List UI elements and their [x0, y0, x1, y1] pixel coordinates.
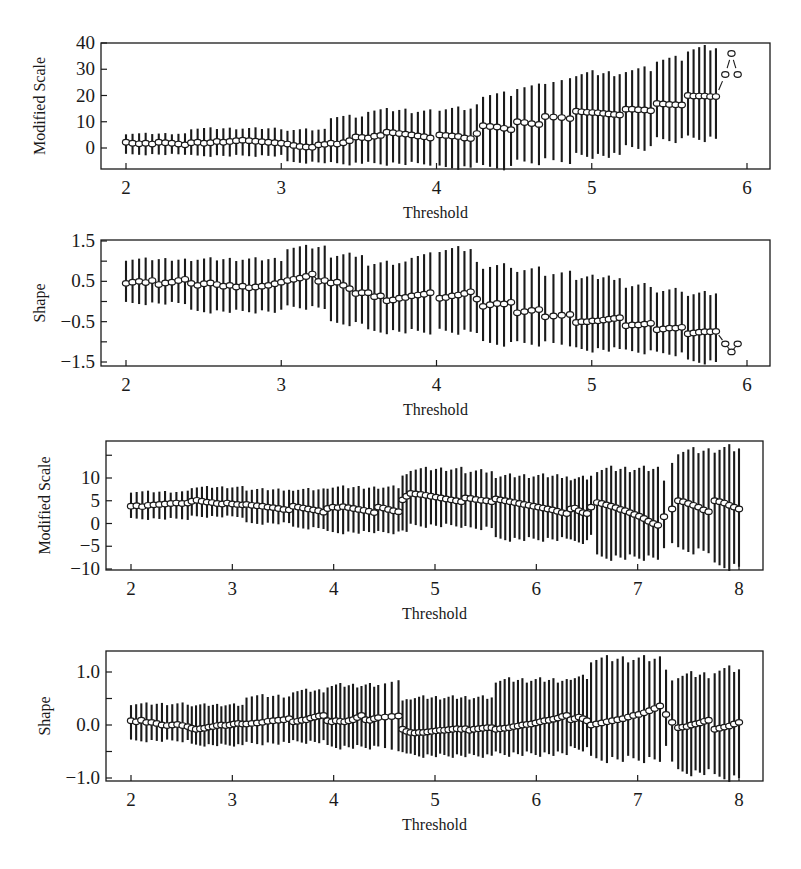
data-point — [669, 720, 676, 726]
point-estimates — [122, 93, 719, 150]
data-point — [669, 506, 676, 512]
y-tick-label: −5 — [80, 535, 100, 556]
x-tick-label: 3 — [228, 578, 238, 599]
data-point — [654, 523, 661, 529]
data-point — [550, 313, 557, 319]
y-tick-label: 10 — [76, 111, 95, 132]
data-point — [507, 127, 514, 133]
data-point — [656, 703, 663, 709]
data-point — [660, 514, 667, 520]
x-tick-label: 4 — [329, 578, 339, 599]
tail-connector — [727, 60, 729, 68]
x-tick-label: 6 — [742, 374, 752, 395]
y-tick-label: −1.5 — [61, 351, 95, 372]
y-tick-label: 0 — [86, 137, 96, 158]
y-tick-label: 20 — [76, 85, 95, 106]
data-point — [535, 307, 542, 313]
x-tick-label: 5 — [587, 374, 597, 395]
x-tick-label: 8 — [734, 578, 744, 599]
data-point — [550, 114, 557, 120]
x-tick-label: 3 — [277, 374, 287, 395]
x-tick-label: 2 — [126, 789, 136, 810]
data-point — [647, 108, 654, 114]
tail-connector — [719, 335, 723, 340]
x-tick-label: 6 — [532, 578, 542, 599]
tail-connector — [719, 81, 723, 90]
data-point — [486, 124, 493, 130]
data-point — [473, 131, 480, 137]
tail-point — [728, 51, 735, 57]
data-point — [479, 304, 486, 310]
data-point — [486, 302, 493, 308]
data-point — [377, 293, 384, 299]
tail-point — [734, 72, 741, 78]
x-tick-label: 5 — [430, 578, 440, 599]
data-point — [500, 301, 507, 307]
data-point — [427, 290, 434, 296]
y-tick-label: −0.5 — [61, 311, 95, 332]
x-tick-label: 5 — [587, 177, 597, 198]
x-axis-label: Threshold — [402, 605, 467, 622]
data-point — [375, 715, 382, 721]
data-point — [566, 312, 573, 318]
data-point — [395, 713, 402, 719]
y-axis-label: Modified Scale — [36, 456, 53, 554]
data-point — [521, 120, 528, 126]
y-tick-label: 0 — [91, 513, 101, 534]
data-point — [583, 511, 590, 517]
data-point — [309, 271, 316, 277]
y-tick-label: 1.5 — [71, 230, 95, 251]
x-tick-label: 3 — [228, 789, 238, 810]
x-tick-label: 7 — [633, 578, 643, 599]
data-point — [388, 714, 395, 720]
y-axis-label: Modified Scale — [31, 57, 48, 155]
data-point — [500, 126, 507, 132]
y-tick-label: 5 — [91, 490, 101, 511]
figure: 01020304023456ThresholdModified Scale −1… — [0, 0, 801, 869]
data-point — [528, 308, 535, 314]
x-axis-label: Threshold — [403, 204, 468, 221]
x-tick-label: 8 — [734, 789, 744, 810]
data-point — [514, 310, 521, 316]
panel-shape-bottom: −1.00.01.02345678ThresholdShape — [36, 651, 763, 833]
x-tick-label: 4 — [432, 374, 442, 395]
data-point — [467, 289, 474, 295]
x-tick-label: 6 — [742, 177, 752, 198]
data-point — [467, 136, 474, 142]
tail-point — [734, 341, 741, 347]
data-point — [712, 94, 719, 100]
x-axis-label: Threshold — [403, 401, 468, 418]
data-point — [735, 720, 742, 726]
data-point — [678, 325, 685, 331]
point-estimates — [122, 271, 719, 336]
data-point — [566, 116, 573, 122]
data-point — [735, 506, 742, 512]
y-tick-label: −1.0 — [66, 767, 100, 788]
panel-modified-scale-bottom: −10−505102345678ThresholdModified Scale — [36, 441, 763, 622]
data-point — [181, 277, 188, 283]
tail-points — [719, 335, 742, 355]
data-point — [542, 114, 549, 120]
data-point — [705, 509, 712, 515]
tail-point — [728, 349, 735, 355]
tail-point — [722, 341, 729, 347]
x-tick-label: 5 — [430, 789, 440, 810]
tail-point — [722, 72, 729, 78]
data-point — [493, 301, 500, 307]
y-tick-label: 1.0 — [76, 661, 100, 682]
data-point — [587, 504, 594, 510]
x-axis-label: Threshold — [402, 816, 467, 833]
data-point — [542, 314, 549, 320]
data-point — [616, 112, 623, 118]
y-tick-label: 0.0 — [76, 714, 100, 735]
x-tick-label: 2 — [126, 578, 136, 599]
data-point — [678, 102, 685, 108]
error-bars — [131, 444, 739, 571]
x-tick-label: 3 — [277, 177, 287, 198]
data-point — [507, 300, 514, 306]
y-tick-label: 40 — [76, 32, 95, 53]
y-axis-label: Shape — [36, 696, 54, 735]
error-bars — [131, 655, 739, 782]
y-tick-label: 0.5 — [71, 270, 95, 291]
data-point — [365, 290, 372, 296]
